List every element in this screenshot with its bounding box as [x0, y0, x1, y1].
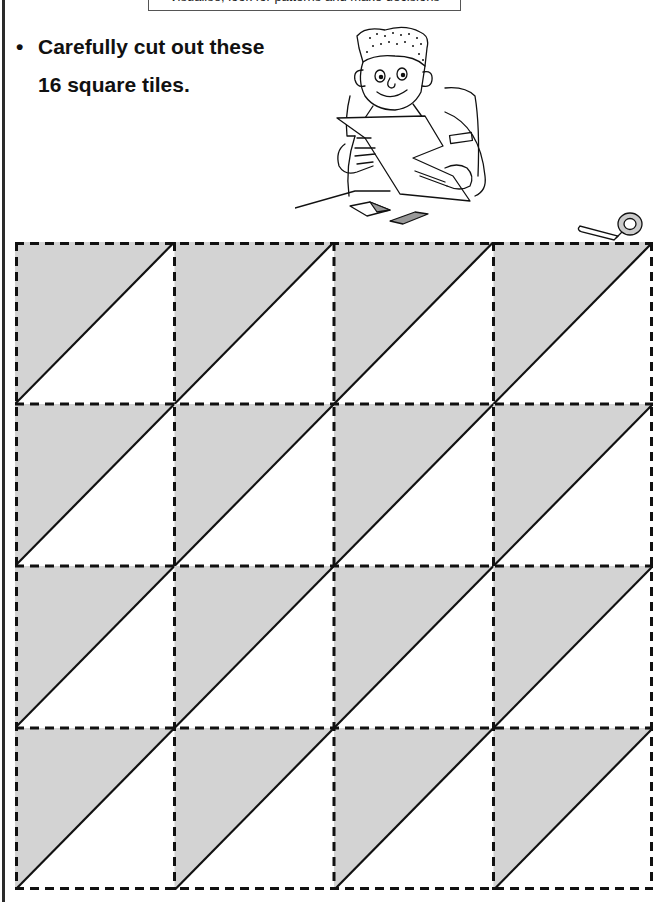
- square-tile: [494, 728, 654, 890]
- square-tile: [494, 404, 654, 566]
- square-tile: [175, 566, 335, 728]
- square-tile: [15, 242, 175, 404]
- instruction-line-1: •Carefully cut out these: [16, 28, 264, 66]
- page-edge-strip: [2, 0, 5, 902]
- instruction-line-2: 16 square tiles.: [16, 66, 264, 104]
- square-tile: [15, 404, 175, 566]
- square-tile: [15, 566, 175, 728]
- boy-cutting-paper-illustration: [295, 26, 505, 231]
- bullet-icon: •: [16, 28, 38, 66]
- tile-grid: [15, 242, 653, 890]
- square-tile: [494, 242, 654, 404]
- square-tile: [494, 566, 654, 728]
- square-tile: [334, 728, 494, 890]
- lesson-objective-text: Visualise, look for patterns and make de…: [149, 0, 460, 3]
- square-tile: [334, 566, 494, 728]
- scissors-icon: [574, 206, 654, 246]
- lesson-objective-box: Visualise, look for patterns and make de…: [148, 0, 461, 11]
- square-tile: [175, 404, 335, 566]
- square-tile: [15, 728, 175, 890]
- square-tile: [175, 242, 335, 404]
- instruction-text: •Carefully cut out these 16 square tiles…: [16, 28, 264, 104]
- square-tile: [175, 728, 335, 890]
- square-tile: [334, 404, 494, 566]
- square-tile: [334, 242, 494, 404]
